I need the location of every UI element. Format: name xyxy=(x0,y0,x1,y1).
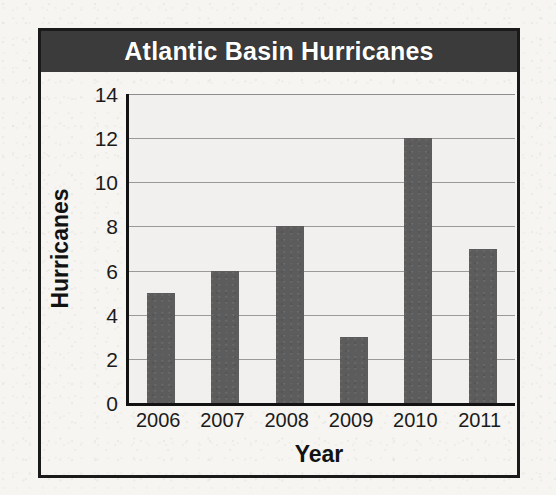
x-axis-tick-label: 2007 xyxy=(190,409,254,432)
bar-slot xyxy=(322,94,386,403)
x-axis-tick-label: 2010 xyxy=(383,409,447,432)
y-axis-tick-label: 2 xyxy=(106,348,118,369)
bar-2010[interactable] xyxy=(404,138,432,403)
x-axis-tick-label: 2006 xyxy=(126,409,190,432)
bar-2006[interactable] xyxy=(147,293,175,403)
y-axis-tick-label: 6 xyxy=(106,260,118,281)
bars-layer xyxy=(129,94,515,403)
chart-title: Atlantic Basin Hurricanes xyxy=(124,37,433,66)
x-axis-tick-label: 2009 xyxy=(319,409,383,432)
x-axis-tick-labels: 200620072008200920102011 xyxy=(126,409,512,432)
bar-slot xyxy=(451,94,515,403)
y-axis-tick-label: 14 xyxy=(95,84,118,105)
bar-2011[interactable] xyxy=(469,249,497,404)
bar-slot xyxy=(258,94,322,403)
chart-title-bar: Atlantic Basin Hurricanes xyxy=(41,31,517,72)
y-axis-tick-label: 12 xyxy=(95,128,118,149)
y-axis-title-label: Hurricanes xyxy=(47,188,74,308)
bar-2008[interactable] xyxy=(276,226,304,403)
y-axis-tick-label: 0 xyxy=(106,393,118,414)
y-axis-title: Hurricanes xyxy=(44,94,76,403)
bar-slot xyxy=(193,94,257,403)
bar-slot xyxy=(386,94,450,403)
bar-2007[interactable] xyxy=(211,271,239,403)
y-axis-tick-labels: 02468101214 xyxy=(78,94,118,403)
y-axis-tick-label: 10 xyxy=(95,172,118,193)
x-axis-title: Year xyxy=(126,441,512,468)
plot-area xyxy=(126,94,515,406)
x-axis-tick-label: 2011 xyxy=(447,409,511,432)
y-axis-tick-label: 4 xyxy=(106,304,118,325)
bar-slot xyxy=(129,94,193,403)
x-axis-tick-label: 2008 xyxy=(255,409,319,432)
y-axis-tick-label: 8 xyxy=(106,216,118,237)
bar-2009[interactable] xyxy=(340,337,368,403)
